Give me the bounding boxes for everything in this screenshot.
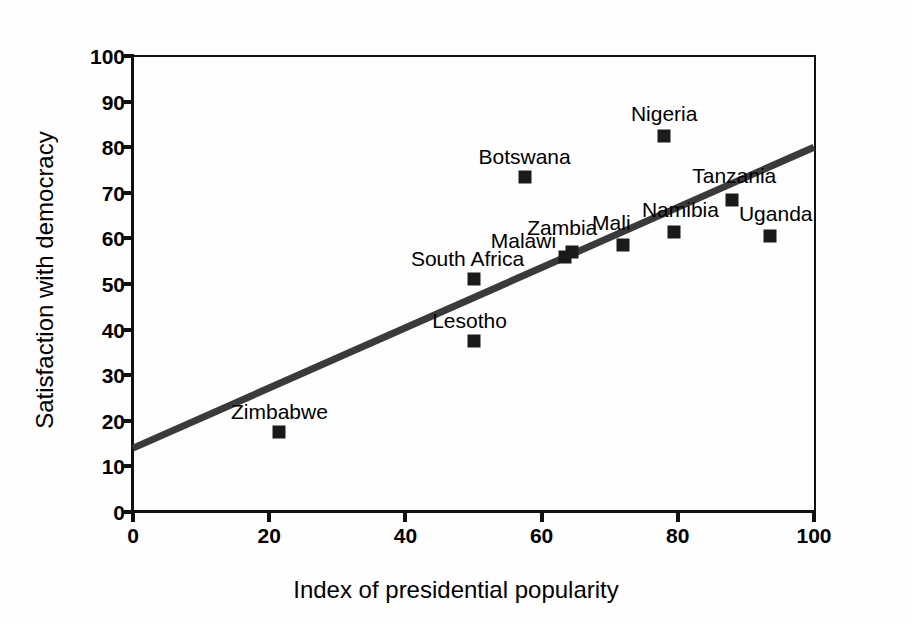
y-tick-label: 80 (102, 137, 125, 158)
y-tick-label: 60 (102, 228, 125, 249)
x-tick-mark (540, 512, 544, 522)
y-tick-mark (124, 54, 133, 58)
x-tick-mark (131, 512, 135, 522)
data-point-label: Lesotho (432, 310, 507, 331)
y-tick-label: 10 (102, 456, 125, 477)
y-tick-label: 0 (113, 502, 125, 523)
x-tick-label: 80 (666, 525, 689, 546)
data-point-marker (763, 230, 776, 243)
data-point-label: Botswana (478, 146, 570, 167)
x-tick-mark (403, 512, 407, 522)
x-tick-mark (267, 512, 271, 522)
scatter-plot-figure: Satisfaction with democracy 010203040506… (0, 0, 912, 623)
y-tick-mark (124, 373, 133, 377)
data-point-label: Uganda (739, 203, 813, 224)
y-tick-label: 30 (102, 365, 125, 386)
y-tick-mark (124, 236, 133, 240)
data-point-marker (518, 170, 531, 183)
data-point-label: Mali (592, 212, 631, 233)
y-tick-mark (124, 464, 133, 468)
plot-frame-right (814, 56, 816, 512)
plot-area: 0102030405060708090100 020406080100 Zimb… (133, 56, 814, 512)
y-tick-mark (124, 419, 133, 423)
y-tick-label: 20 (102, 410, 125, 431)
y-tick-label: 70 (102, 182, 125, 203)
x-tick-label: 40 (394, 525, 417, 546)
y-axis-title: Satisfaction with democracy (33, 70, 57, 490)
y-tick-mark (124, 145, 133, 149)
data-point-label: Zimbabwe (231, 401, 328, 422)
data-point-marker (467, 273, 480, 286)
y-tick-label: 40 (102, 319, 125, 340)
y-tick-mark (124, 282, 133, 286)
data-point-marker (467, 335, 480, 348)
x-tick-label: 60 (530, 525, 553, 546)
data-point-label: Tanzania (692, 165, 776, 186)
x-tick-label: 20 (258, 525, 281, 546)
data-point-marker (566, 246, 579, 259)
y-tick-label: 90 (102, 91, 125, 112)
y-tick-mark (124, 191, 133, 195)
x-tick-mark (676, 512, 680, 522)
y-tick-label: 50 (102, 274, 125, 295)
data-point-label: Nigeria (631, 103, 698, 124)
data-point-marker (658, 129, 671, 142)
x-tick-label: 100 (796, 525, 831, 546)
data-point-marker (617, 239, 630, 252)
data-point-label: Namibia (642, 199, 719, 220)
y-tick-mark (124, 100, 133, 104)
x-axis-title: Index of presidential popularity (0, 578, 912, 602)
data-point-marker (273, 426, 286, 439)
data-point-marker (726, 193, 739, 206)
x-tick-mark (812, 512, 816, 522)
data-point-marker (668, 225, 681, 238)
x-tick-label: 0 (127, 525, 139, 546)
y-tick-mark (124, 328, 133, 332)
y-tick-label: 100 (90, 46, 125, 67)
data-point-label: Zambia (527, 217, 597, 238)
